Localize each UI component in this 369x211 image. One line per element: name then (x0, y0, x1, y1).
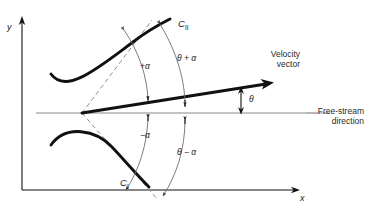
velocity-vector (82, 79, 274, 113)
velocity-vector-label-line1: Velocity (271, 49, 300, 59)
characteristics-angle-diagram: y x CII CI +α −α θ + α θ − α θ Velocityv… (0, 0, 369, 211)
axis-y-label: y (7, 22, 12, 32)
curve-label-lower: CI (120, 178, 129, 190)
curve-label-lower-subscript: I (127, 183, 129, 190)
angle-label-theta: θ (249, 95, 254, 105)
curve-label-upper-text: C (178, 18, 185, 29)
characteristic-curve-upper (51, 19, 170, 82)
theta-measure-arrow (238, 87, 244, 115)
arc-theta-plus-alpha (160, 24, 185, 106)
angle-label-theta-minus-alpha: θ − α (177, 148, 196, 158)
angle-label-minus-alpha: −α (140, 131, 150, 141)
axis-y (19, 16, 25, 190)
characteristic-curve-lower (51, 132, 149, 187)
axis-x (22, 187, 300, 193)
free-stream-label-line1: Free-stream (318, 106, 364, 116)
curve-label-upper: CII (178, 19, 189, 31)
arc-minus-alpha (126, 118, 148, 190)
curve-label-lower-text: C (120, 177, 127, 188)
arc-theta-minus-alpha (163, 120, 185, 196)
curve-label-upper-subscript: II (185, 24, 189, 31)
diagram-canvas (0, 0, 369, 211)
free-stream-direction-label: Free-streamdirection (250, 107, 364, 127)
axis-x-label: x (300, 193, 305, 203)
angle-label-plus-alpha: +α (140, 62, 150, 72)
free-stream-label-line2: direction (332, 116, 364, 126)
angle-label-theta-plus-alpha: θ + α (177, 54, 196, 64)
velocity-vector-label: Velocityvector (228, 50, 300, 70)
velocity-vector-label-line2: vector (277, 59, 300, 69)
